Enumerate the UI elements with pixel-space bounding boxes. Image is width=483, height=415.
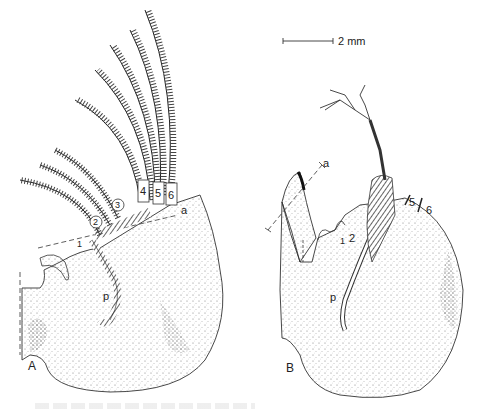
panel-b-label-5: 5 bbox=[409, 197, 415, 208]
panel-a-label-2: 2 bbox=[93, 218, 98, 227]
panel-b-posterior-label: p bbox=[330, 292, 336, 303]
panel-b-label-2: 2 bbox=[349, 233, 355, 244]
panel-b-label: B bbox=[286, 362, 294, 374]
panel-a-anterior-label: a bbox=[181, 205, 187, 216]
scale-bar-label: 2 mm bbox=[338, 35, 366, 47]
panel-a-label-6: 6 bbox=[168, 190, 174, 201]
panel-a bbox=[20, 10, 223, 392]
scale-bar bbox=[283, 38, 333, 44]
panel-a-label-3: 3 bbox=[115, 201, 120, 210]
panel-a-label-5: 5 bbox=[155, 188, 161, 199]
panel-a-posterior-label: p bbox=[103, 291, 109, 302]
panel-a-label-4: 4 bbox=[140, 186, 146, 197]
panel-b-label-6: 6 bbox=[426, 205, 432, 216]
panel-a-label-1: 1 bbox=[77, 240, 82, 249]
figure: 2 mm A 1 2 3 4 5 6 a p B 1 2 5 6 a p bbox=[0, 0, 483, 415]
panel-a-label: A bbox=[28, 360, 36, 372]
panel-b bbox=[265, 38, 463, 398]
panel-b-anterior-label: a bbox=[323, 158, 329, 169]
panel-b-label-1: 1 bbox=[340, 237, 345, 246]
caption-faint bbox=[35, 403, 255, 409]
